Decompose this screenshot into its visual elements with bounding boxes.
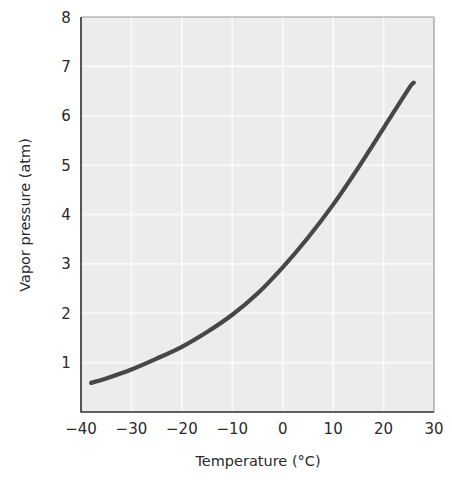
y-tick-label: 2	[61, 305, 71, 323]
y-tick-label: 3	[61, 255, 71, 273]
x-tick-label: −20	[166, 420, 198, 438]
x-tick-label: −10	[216, 420, 248, 438]
y-tick-label: 8	[61, 9, 71, 27]
x-tick-label: 20	[374, 420, 393, 438]
y-tick-label: 4	[61, 206, 71, 224]
x-tick-label: 30	[424, 420, 443, 438]
y-tick-label: 7	[61, 58, 71, 76]
x-tick-label: 0	[278, 420, 288, 438]
x-axis-title: Temperature (°C)	[194, 453, 320, 469]
y-tick-label: 6	[61, 107, 71, 125]
x-tick-label: 10	[324, 420, 343, 438]
y-tick-label: 1	[61, 354, 71, 372]
x-tick-label: −40	[65, 420, 97, 438]
y-axis-title: Vapor pressure (atm)	[17, 138, 33, 292]
x-tick-label: −30	[116, 420, 148, 438]
y-axis-tick-labels: 12345678	[61, 9, 71, 373]
x-axis-tick-labels: −40−30−20−100102030	[65, 420, 443, 438]
y-tick-label: 5	[61, 157, 71, 175]
vapor-pressure-chart: −40−30−20−100102030 12345678 Temperature…	[0, 0, 452, 481]
